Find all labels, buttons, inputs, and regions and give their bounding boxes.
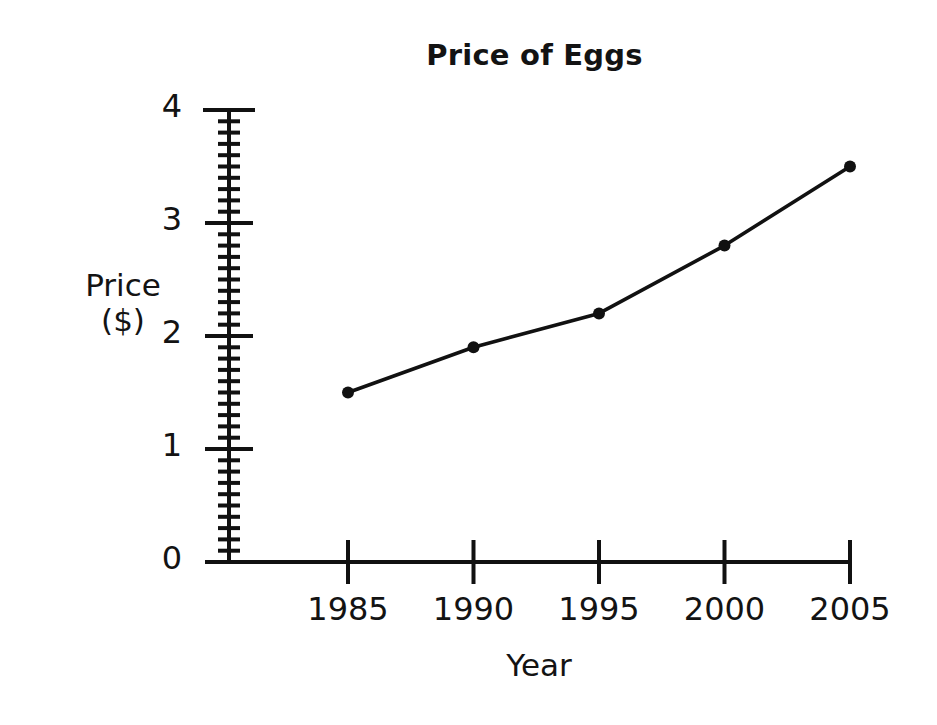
chart-page: Price of Eggs Price ($) Year 43210 19851… bbox=[0, 0, 937, 725]
data-point-marker bbox=[342, 387, 354, 399]
data-point-marker bbox=[468, 341, 480, 353]
axis-lines bbox=[229, 109, 851, 562]
y-axis-tick-label: 4 bbox=[142, 87, 202, 125]
x-axis-tick-label: 1990 bbox=[404, 590, 544, 628]
data-point-marker bbox=[719, 240, 731, 252]
x-axis-tick-label: 1985 bbox=[278, 590, 418, 628]
y-axis-tick-label: 2 bbox=[142, 313, 202, 351]
data-line-series bbox=[348, 167, 850, 393]
y-axis-tick-label: 3 bbox=[142, 200, 202, 238]
x-axis-tick-label: 2005 bbox=[780, 590, 920, 628]
data-line bbox=[348, 167, 850, 393]
data-point-marker bbox=[844, 161, 856, 173]
y-axis-tick-label: 0 bbox=[142, 539, 202, 577]
y-axis-label-line1: Price bbox=[48, 268, 198, 303]
data-point-markers bbox=[342, 161, 856, 399]
x-axis-label: Year bbox=[449, 648, 629, 683]
x-axis-tick-label: 1995 bbox=[529, 590, 669, 628]
x-axis-label-text: Year bbox=[449, 648, 629, 683]
y-axis-tick-label: 1 bbox=[142, 426, 202, 464]
data-point-marker bbox=[593, 307, 605, 319]
x-axis-tick-label: 2000 bbox=[655, 590, 795, 628]
